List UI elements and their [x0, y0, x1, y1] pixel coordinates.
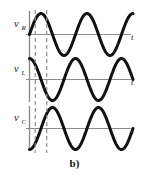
series-label-vr-base: v [14, 18, 19, 29]
x-axis-label-vr: t [131, 32, 134, 42]
waveform-figure: v R t v L t v C t b) [0, 0, 149, 181]
series-label-vl-sub: L [21, 69, 26, 77]
waveform-plot: v R t v L t v C t [0, 0, 149, 181]
series-label-vc-sub: C [22, 118, 27, 126]
panel-vl: v L t [14, 57, 134, 102]
panel-vc: v C t [14, 106, 134, 151]
series-label-vl-base: v [14, 63, 19, 74]
panel-vr: v R t [14, 11, 134, 57]
series-label-vc-base: v [14, 112, 19, 123]
figure-caption: b) [0, 157, 149, 169]
series-label-vr-sub: R [21, 24, 27, 32]
